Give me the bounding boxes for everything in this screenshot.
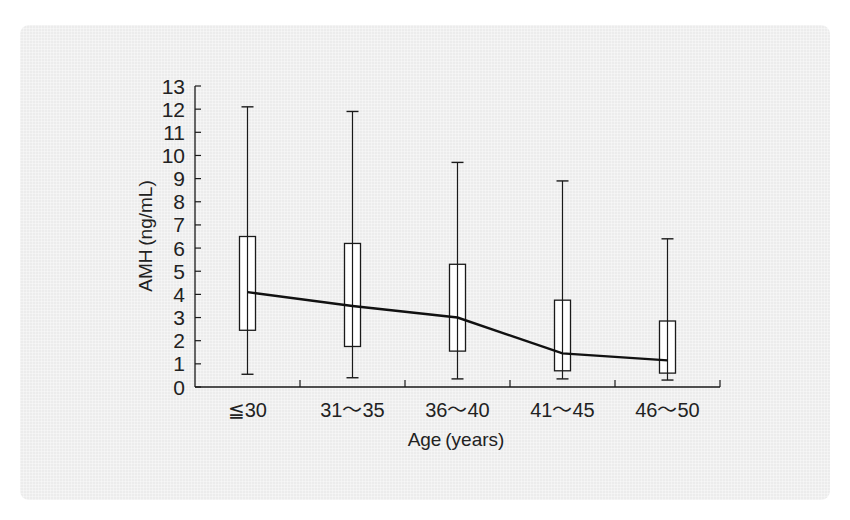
- box-series: [240, 107, 676, 380]
- box-plot-chart: 012345678910111213≦3031〜3536〜4041〜4546〜5…: [0, 0, 850, 520]
- y-tick-label: 3: [173, 306, 185, 329]
- y-tick-label: 1: [173, 352, 185, 375]
- y-axis-title: AMH (ng/mL): [135, 180, 156, 292]
- y-tick-label: 11: [163, 121, 185, 144]
- x-tick-label: 31〜35: [320, 399, 385, 421]
- y-tick-label: 7: [173, 213, 185, 236]
- y-tick-label: 4: [173, 283, 185, 306]
- x-tick-label: ≦30: [228, 399, 267, 421]
- box-0: [240, 107, 256, 374]
- y-tick-label: 0: [173, 376, 185, 399]
- box-2: [450, 162, 466, 378]
- y-tick-label: 5: [173, 260, 185, 283]
- y-tick-label: 6: [173, 237, 185, 260]
- x-tick-label: 41〜45: [530, 399, 595, 421]
- y-tick-label: 13: [162, 75, 185, 98]
- y-tick-label: 8: [173, 190, 185, 213]
- y-tick-label: 9: [173, 167, 185, 190]
- box-3: [555, 181, 571, 379]
- y-tick-label: 12: [162, 98, 185, 121]
- y-tick-label: 2: [173, 329, 185, 352]
- box-1: [345, 111, 361, 377]
- x-tick-label: 46〜50: [635, 399, 700, 421]
- x-axis-title: Age (years): [408, 429, 505, 450]
- x-tick-label: 36〜40: [425, 399, 490, 421]
- y-tick-label: 10: [162, 144, 185, 167]
